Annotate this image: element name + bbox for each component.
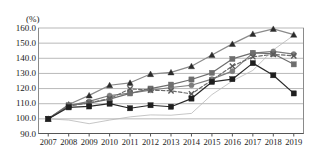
index-line-chart: (%) 160.0150.0140.0130.0120.0110.0100.09… — [0, 0, 313, 165]
x-axis-tick: 2011 — [122, 137, 139, 147]
y-axis-tick: 140.0 — [16, 54, 36, 63]
y-axis-tick: 160.0 — [16, 24, 36, 33]
x-axis-tick-labels: 2007200820092010201120122013201420152016… — [38, 137, 304, 153]
y-axis-tick-labels: 160.0150.0140.0130.0120.0110.0100.090.0 — [0, 28, 36, 134]
plot-frame — [38, 28, 304, 134]
y-axis-tick: 110.0 — [16, 99, 36, 108]
y-axis-tick: 90.0 — [20, 130, 36, 139]
x-axis-tick: 2019 — [285, 137, 302, 147]
y-axis-tick: 130.0 — [16, 69, 36, 78]
plot-area — [38, 28, 304, 134]
y-axis-tick: 100.0 — [16, 114, 36, 123]
x-axis-tick: 2017 — [244, 137, 261, 147]
y-axis-tick: 150.0 — [16, 39, 36, 48]
y-axis-tick: 120.0 — [16, 84, 36, 93]
x-axis-tick: 2015 — [203, 137, 220, 147]
x-axis-tick: 2016 — [224, 137, 241, 147]
x-axis-tick: 2012 — [142, 137, 159, 147]
x-axis-tick: 2010 — [101, 137, 118, 147]
x-axis-tick: 2014 — [183, 137, 200, 147]
x-axis-tick: 2013 — [163, 137, 180, 147]
x-axis-tick: 2007 — [40, 137, 57, 147]
x-axis-tick: 2009 — [81, 137, 98, 147]
x-axis-tick: 2018 — [265, 137, 282, 147]
x-axis-tick: 2008 — [60, 137, 77, 147]
